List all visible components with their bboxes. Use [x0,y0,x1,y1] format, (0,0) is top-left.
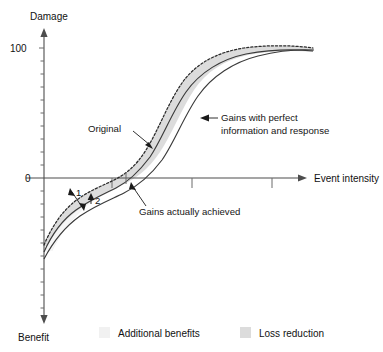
legend-label-additional-benefits: Additional benefits [118,328,200,339]
annotation-perfect-line2: information and response [221,125,329,136]
legend-label-loss-reduction: Loss reduction [259,328,324,339]
marker-one-arrowhead-top [68,188,75,196]
legend-swatch-additional-benefits [99,327,110,338]
damage-benefit-chart: Damage Benefit 100 0 Event intensity Ori… [0,0,383,352]
curve-gains-perfect-information [44,50,313,252]
y-tick-label-100: 100 [10,43,27,54]
chart-svg: Damage Benefit 100 0 Event intensity Ori… [0,0,383,352]
annotation-perfect-line1: Gains with perfect [221,112,298,123]
y-axis-bottom-title: Benefit [18,332,49,343]
annotation-original: Original [88,123,121,134]
additional-benefits-band [44,184,124,252]
y-axis-arrow-up [40,28,47,37]
y-axis-arrow-down [40,315,47,324]
x-axis-arrow [298,174,307,181]
legend-swatch-loss-reduction [240,327,251,338]
x-axis-title: Event intensity [314,173,379,184]
curve-gains-actually-achieved [44,50,314,259]
y-tick-label-0: 0 [25,173,31,184]
annotation-achieved: Gains actually achieved [139,206,240,217]
marker-two-label: 2 [95,195,100,206]
loss-reduction-band [44,46,313,251]
annotation-original-leader [133,131,150,145]
annotation-achieved-leader [133,187,146,206]
marker-one-label: 1 [76,187,81,198]
y-axis-title: Damage [30,11,68,22]
